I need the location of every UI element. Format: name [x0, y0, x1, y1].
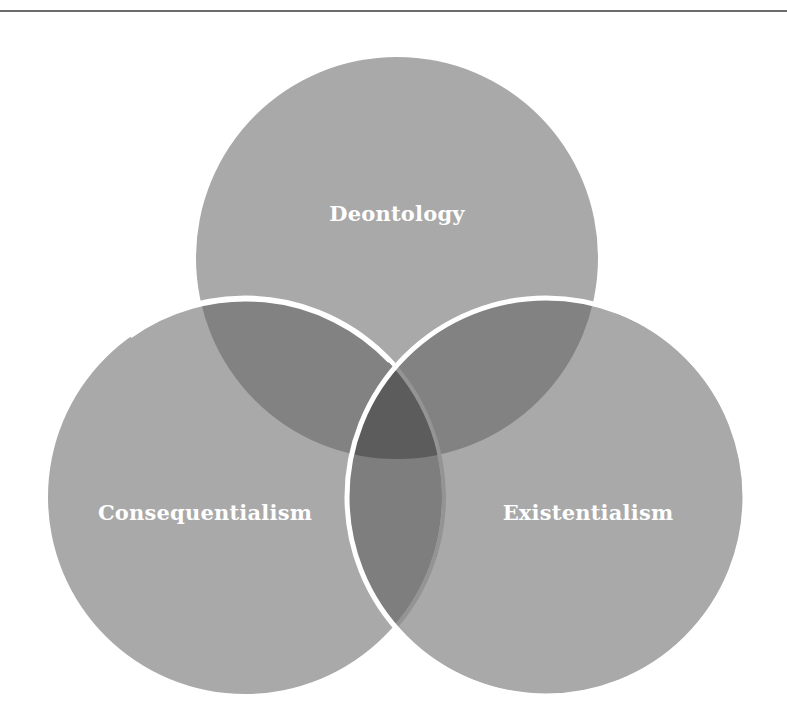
venn-diagram — [0, 0, 787, 728]
label-consequentialism: Consequentialism — [98, 500, 312, 525]
label-deontology: Deontology — [329, 201, 464, 226]
label-existentialism: Existentialism — [503, 500, 674, 525]
